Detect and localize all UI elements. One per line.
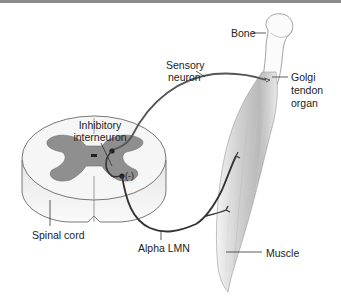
label-golgi-2: tendon	[291, 84, 323, 96]
label-muscle: Muscle	[266, 247, 299, 259]
label-bone: Bone	[231, 27, 256, 39]
label-golgi-1: Golgi	[291, 71, 316, 83]
label-alpha-lmn: Alpha LMN	[138, 242, 190, 254]
label-inhibitory-2: interneuron	[68, 131, 132, 143]
label-inhibition-sign: (-)	[125, 170, 134, 182]
label-sensory-neuron-2: neuron	[168, 71, 201, 83]
label-sensory-neuron-1: Sensory	[166, 59, 205, 71]
label-golgi-3: organ	[291, 97, 318, 109]
label-spinal-cord: Spinal cord	[32, 229, 85, 241]
label-inhibitory-1: Inhibitory	[70, 119, 130, 131]
